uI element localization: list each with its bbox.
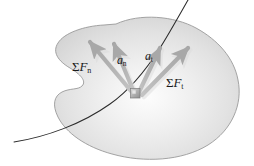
particle bbox=[131, 89, 141, 99]
label-sum-f-t-sigma: Σ bbox=[166, 75, 174, 90]
label-sum-f-n-subscript: n bbox=[87, 66, 91, 75]
label-a-n: an bbox=[117, 54, 127, 66]
label-a-t: at bbox=[145, 50, 153, 62]
label-sum-f-n-sigma: Σ bbox=[72, 59, 80, 74]
label-sum-f-t: ΣFt bbox=[166, 76, 184, 89]
label-a-n-subscript: n bbox=[123, 59, 127, 68]
particle-highlight bbox=[132, 90, 135, 93]
dynamics-figure-svg bbox=[0, 0, 254, 166]
label-sum-f-n: ΣFn bbox=[72, 60, 92, 73]
label-a-t-subscript: t bbox=[151, 55, 153, 64]
figure-root: ΣFn ΣFt an at bbox=[0, 0, 254, 166]
